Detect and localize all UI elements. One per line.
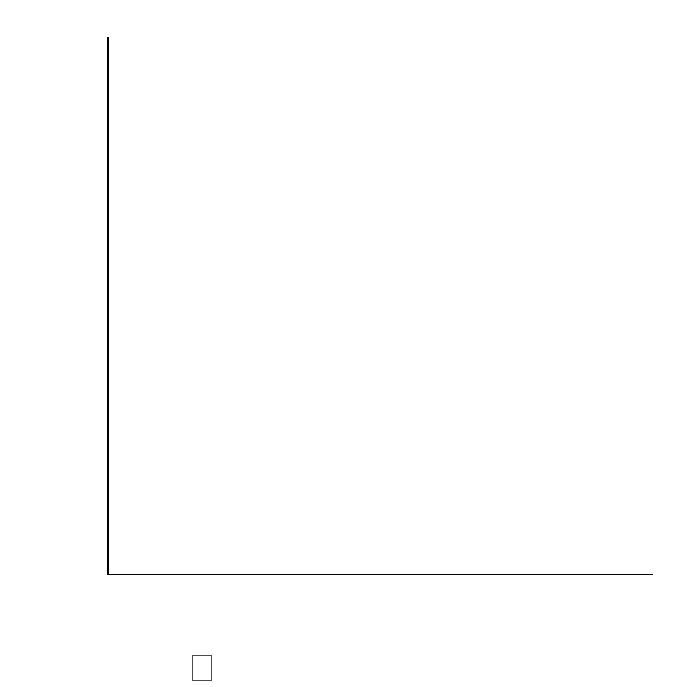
y-axis-labels [0, 0, 97, 687]
x-axis-line [107, 574, 653, 576]
chart-figure [0, 0, 685, 687]
y-axis-line [107, 37, 109, 575]
stacked-area-svg [108, 38, 652, 574]
plot-area [108, 38, 652, 574]
chart-legend [192, 655, 212, 681]
